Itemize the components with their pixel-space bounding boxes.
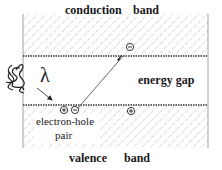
- photon-arrow: [37, 88, 52, 100]
- lambda-symbol: λ: [40, 64, 50, 86]
- electron-hole-label: electron-hole: [36, 115, 94, 127]
- conduction-band-label: band: [133, 3, 159, 17]
- excitation-line: [78, 55, 124, 108]
- energy-gap-label: energy gap: [138, 73, 195, 87]
- conduction-label: conduction: [65, 3, 122, 17]
- band-diagram: conduction band energy gap valence band …: [0, 0, 222, 170]
- valence-label: valence: [69, 151, 108, 165]
- pair-label: pair: [55, 129, 72, 141]
- conduction-band-region: [23, 14, 208, 56]
- valence-band-label: band: [124, 151, 150, 165]
